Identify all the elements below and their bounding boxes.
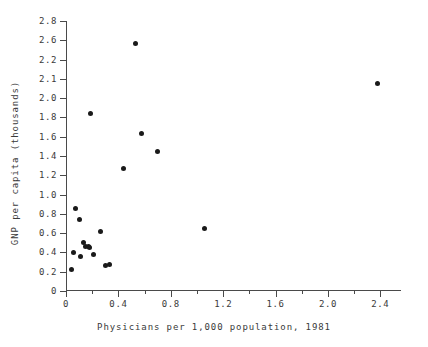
- data-point: [71, 250, 76, 255]
- data-point: [69, 267, 74, 272]
- data-point: [139, 131, 144, 136]
- data-point: [121, 166, 126, 171]
- x-tick-label: 2.0: [319, 300, 337, 309]
- x-tick: [302, 291, 303, 294]
- data-point: [133, 41, 138, 46]
- y-tick-label: 0.2: [39, 267, 57, 276]
- data-point: [91, 252, 96, 257]
- x-tick: [380, 291, 381, 297]
- y-tick-label: 1.6: [39, 132, 57, 141]
- y-tick: [60, 117, 66, 118]
- data-point: [107, 262, 112, 267]
- x-axis-line: [66, 290, 401, 291]
- y-tick-label: 1.0: [39, 190, 57, 199]
- data-point: [73, 206, 78, 211]
- x-tick-label: 1.2: [214, 300, 232, 309]
- y-tick-label: 0.4: [39, 248, 57, 257]
- x-tick: [171, 291, 172, 297]
- y-axis-title: GNP per capita (thousands): [10, 28, 24, 298]
- y-tick-label: 1.8: [39, 113, 57, 122]
- data-point: [87, 245, 92, 250]
- y-tick-label: 2.8: [39, 17, 57, 26]
- data-point: [78, 254, 83, 259]
- y-tick-label: 1.2: [39, 171, 57, 180]
- y-tick-label: 0.6: [39, 229, 57, 238]
- y-tick: [60, 98, 66, 99]
- x-tick: [197, 291, 198, 294]
- y-tick: [60, 175, 66, 176]
- y-tick: [60, 233, 66, 234]
- x-tick: [223, 291, 224, 297]
- y-tick: [60, 195, 66, 196]
- plot-area: 00.20.40.60.81.01.21.41.61.82.02.12.22.6…: [66, 21, 400, 291]
- x-tick-label: 0.4: [109, 300, 127, 309]
- x-tick-label: 0.8: [162, 300, 180, 309]
- y-tick-label: 0.8: [39, 209, 57, 218]
- y-tick-label: 0: [51, 287, 57, 296]
- x-tick: [92, 291, 93, 294]
- data-point: [155, 149, 160, 154]
- y-tick: [60, 214, 66, 215]
- y-tick: [60, 40, 66, 41]
- data-point: [202, 226, 207, 231]
- data-point: [88, 111, 93, 116]
- x-tick: [145, 291, 146, 294]
- y-tick: [60, 21, 66, 22]
- y-tick: [60, 79, 66, 80]
- x-tick-label: 2.4: [371, 300, 389, 309]
- scatter-chart-figure: 00.20.40.60.81.01.21.41.61.82.02.12.22.6…: [0, 0, 428, 347]
- y-tick: [60, 60, 66, 61]
- x-tick: [118, 291, 119, 297]
- y-tick-label: 2.6: [39, 36, 57, 45]
- x-tick: [354, 291, 355, 294]
- x-tick: [66, 291, 67, 297]
- data-point: [375, 81, 380, 86]
- x-tick: [328, 291, 329, 297]
- y-tick: [60, 137, 66, 138]
- x-axis-title: Physicians per 1,000 population, 1981: [0, 322, 428, 332]
- y-tick-label: 2.0: [39, 94, 57, 103]
- y-tick-label: 2.1: [39, 74, 57, 83]
- y-tick: [60, 272, 66, 273]
- x-tick: [276, 291, 277, 297]
- x-tick-label: 1.6: [267, 300, 285, 309]
- data-point: [98, 229, 103, 234]
- x-tick-label: 0: [63, 300, 69, 309]
- y-tick-label: 1.4: [39, 152, 57, 161]
- data-point: [77, 217, 82, 222]
- y-tick: [60, 156, 66, 157]
- y-tick: [60, 252, 66, 253]
- x-tick: [249, 291, 250, 294]
- y-tick-label: 2.2: [39, 55, 57, 64]
- y-axis-line: [66, 21, 67, 292]
